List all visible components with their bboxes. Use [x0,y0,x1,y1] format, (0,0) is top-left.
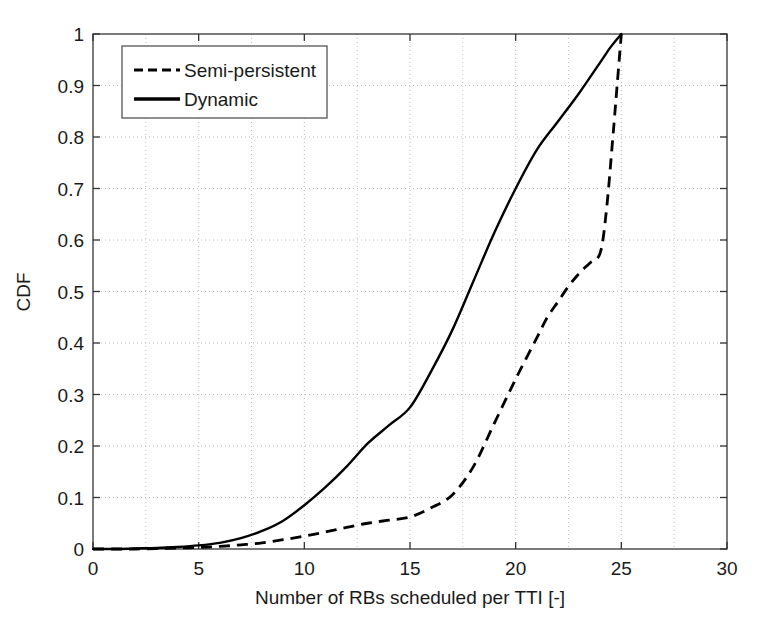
y-tick-label: 0.9 [58,76,84,97]
y-tick-label: 0 [73,539,84,560]
y-tick-label: 0.8 [58,127,84,148]
y-tick-label: 0.2 [58,436,84,457]
x-tick-label: 15 [399,558,420,579]
x-tick-label: 20 [505,558,526,579]
y-tick-label: 0.5 [58,282,84,303]
y-tick-label: 0.1 [58,488,84,509]
x-tick-label: 25 [611,558,632,579]
figure-canvas: 051015202530 00.10.20.30.40.50.60.70.80.… [0,0,762,634]
x-axis-title: Number of RBs scheduled per TTI [-] [255,587,565,608]
y-tick-label: 0.3 [58,385,84,406]
x-tick-label: 30 [716,558,737,579]
legend-label-dynamic: Dynamic [184,89,258,110]
legend-label-semi-persistent: Semi-persistent [184,60,317,81]
y-tick-label: 0.6 [58,230,84,251]
x-tick-label: 0 [88,558,99,579]
cdf-chart: 051015202530 00.10.20.30.40.50.60.70.80.… [0,0,762,634]
y-tick-label: 0.4 [58,333,85,354]
figure-background [0,0,762,634]
x-tick-label: 10 [294,558,315,579]
y-tick-label: 1 [73,24,84,45]
y-tick-label: 0.7 [58,179,84,200]
y-axis-title: CDF [13,272,34,311]
legend[interactable]: Semi-persistent Dynamic [122,46,327,118]
x-tick-label: 5 [193,558,204,579]
